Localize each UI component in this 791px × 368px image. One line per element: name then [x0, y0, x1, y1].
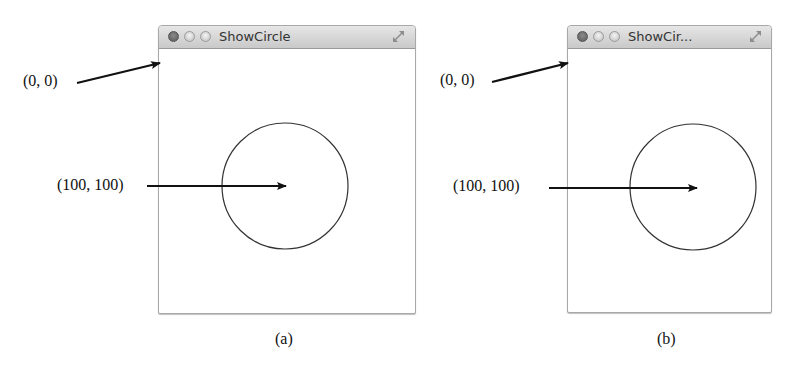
origin-label-b: (0, 0) — [440, 71, 475, 89]
caption-a: (a) — [275, 330, 293, 348]
caption-b: (b) — [657, 330, 676, 348]
origin-arrow-b — [492, 63, 568, 82]
origin-label-a: (0, 0) — [23, 72, 58, 90]
origin-arrow-a — [77, 63, 160, 83]
center-label-b: (100, 100) — [453, 177, 520, 195]
center-label-a: (100, 100) — [57, 176, 124, 194]
